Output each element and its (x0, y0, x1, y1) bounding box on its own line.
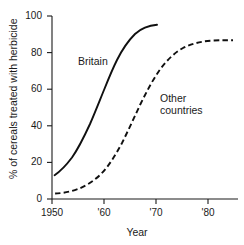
y-tick-label-0: 0 (16, 194, 42, 204)
y-tick-label-100: 100 (16, 11, 42, 21)
x-tick-label-1980: '80 (192, 208, 224, 218)
series-annotation-other-line2: countries (160, 105, 203, 117)
y-tick-label-40: 40 (16, 121, 42, 131)
series-annotation-britain: Britain (78, 56, 108, 68)
x-tick-label-1960: '60 (88, 208, 120, 218)
x-tick-label-1970: '70 (140, 208, 172, 218)
x-axis-title: Year (107, 226, 167, 238)
y-tick-label-80: 80 (16, 48, 42, 58)
y-tick-label-60: 60 (16, 84, 42, 94)
y-axis-ticks (47, 16, 52, 199)
x-tick-label-1950: 1950 (33, 208, 71, 218)
y-axis-title: % of cereals treated with herbicide (7, 29, 19, 179)
series-annotation-other-line1: Other (160, 93, 203, 105)
chart-figure: 100 80 60 40 20 0 1950 '60 '70 '80 % of … (0, 0, 244, 245)
axes (47, 16, 238, 204)
x-axis-ticks (52, 199, 208, 204)
y-tick-label-20: 20 (16, 157, 42, 167)
data-series (55, 25, 233, 194)
series-annotation-other-countries: Other countries (160, 93, 203, 116)
